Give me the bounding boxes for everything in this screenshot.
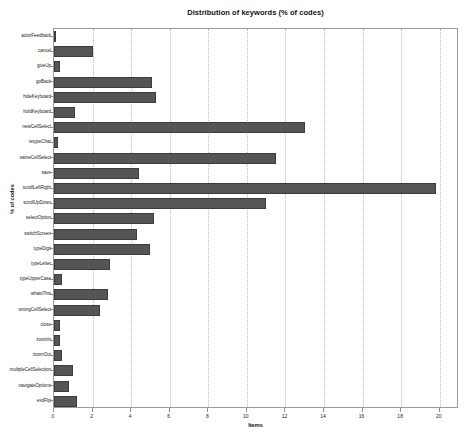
bar: [54, 350, 62, 361]
bar-row: [54, 363, 458, 379]
x-tick-mark: [400, 408, 401, 412]
y-tick-label: typeUpperCase: [1, 276, 51, 281]
x-tick-label: 8: [206, 413, 209, 419]
y-tick-label: selectOption: [1, 215, 51, 220]
y-tick-label: whatsThis: [1, 291, 51, 296]
x-axis-label: Items: [53, 422, 458, 428]
bar: [54, 46, 93, 57]
plot-area: [53, 28, 458, 408]
x-tick-mark: [92, 408, 93, 412]
y-tick-label: scrollUpDown: [1, 200, 51, 205]
bar: [54, 229, 137, 240]
y-tick-label: multipleCellSelection: [1, 367, 51, 372]
y-tick-label: zoomOut: [1, 352, 51, 357]
bar-row: [54, 104, 458, 120]
bar-row: [54, 317, 458, 333]
bar: [54, 381, 69, 392]
y-tick-label: giveUp: [1, 63, 51, 68]
x-tick-label: 4: [129, 413, 132, 419]
bar-row: [54, 302, 458, 318]
bar: [54, 61, 60, 72]
y-tick-label: close: [1, 322, 51, 327]
bar-row: [54, 287, 458, 303]
x-tick-label: 6: [167, 413, 170, 419]
bar: [54, 365, 73, 376]
bar: [54, 305, 100, 316]
x-tick-label: 20: [436, 413, 442, 419]
bar: [54, 183, 436, 194]
bar: [54, 92, 156, 103]
bar-row: [54, 120, 458, 136]
bar-row: [54, 272, 458, 288]
y-tick-label: sameCellSelect: [1, 155, 51, 160]
bar: [54, 213, 154, 224]
y-tick-label: newCellSelect: [1, 124, 51, 129]
bar-row: [54, 135, 458, 151]
y-tick-label: cancel: [1, 48, 51, 53]
y-tick-label: navigateOptions: [1, 383, 51, 388]
y-tick-label: scrollLeftRight: [1, 185, 51, 190]
x-tick-label: 14: [320, 413, 326, 419]
bar-row: [54, 150, 458, 166]
bar-row: [54, 378, 458, 394]
x-tick-mark: [246, 408, 247, 412]
bar: [54, 107, 75, 118]
x-tick-mark: [362, 408, 363, 412]
y-tick-label: holdKeyboard: [1, 109, 51, 114]
bar-row: [54, 28, 458, 44]
y-tick-label: wrongCellSelect: [1, 307, 51, 312]
y-tick-label: switchScreen: [1, 231, 51, 236]
x-tick-label: 10: [243, 413, 249, 419]
x-tick-mark: [323, 408, 324, 412]
x-tick-label: 0: [52, 413, 55, 419]
y-tick-label: retypeChar: [1, 139, 51, 144]
bar-row: [54, 180, 458, 196]
bar-row: [54, 226, 458, 242]
y-tick-label: zoomIn: [1, 337, 51, 342]
bar-row: [54, 74, 458, 90]
y-tick-label: exitFlip: [1, 398, 51, 403]
y-tick-label: typeLetter: [1, 261, 51, 266]
x-tick-mark: [207, 408, 208, 412]
x-tick-mark: [284, 408, 285, 412]
x-tick-mark: [53, 408, 54, 412]
chart-title: Distribution of keywords (% of codes): [53, 8, 458, 17]
bar: [54, 244, 150, 255]
x-tick-mark: [130, 408, 131, 412]
bar: [54, 168, 139, 179]
bar: [54, 122, 305, 133]
bar: [54, 335, 60, 346]
y-tick-label: hideKeyboard: [1, 94, 51, 99]
bar: [54, 274, 62, 285]
bar-row: [54, 165, 458, 181]
bar: [54, 320, 60, 331]
bar-row: [54, 241, 458, 257]
bar-row: [54, 256, 458, 272]
x-tick-label: 16: [359, 413, 365, 419]
bar-row: [54, 59, 458, 75]
bar: [54, 153, 276, 164]
y-tick-label: typeDigit: [1, 246, 51, 251]
bar-row: [54, 211, 458, 227]
bar-row: [54, 348, 458, 364]
bar-row: [54, 44, 458, 60]
x-tick-mark: [439, 408, 440, 412]
bar: [54, 289, 108, 300]
x-tick-label: 2: [90, 413, 93, 419]
y-tick-label: actorFeedback: [1, 33, 51, 38]
bar-row: [54, 89, 458, 105]
x-tick-mark: [169, 408, 170, 412]
y-tick-label: goBack: [1, 79, 51, 84]
bar: [54, 31, 56, 42]
x-tick-label: 12: [282, 413, 288, 419]
bar: [54, 137, 58, 148]
bar: [54, 259, 110, 270]
bar: [54, 198, 266, 209]
chart-figure: Distribution of keywords (% of codes) % …: [0, 0, 472, 442]
bar-row: [54, 196, 458, 212]
bar: [54, 77, 152, 88]
bar: [54, 396, 77, 407]
y-tick-label: save: [1, 170, 51, 175]
y-axis-tick-labels: actorFeedbackcancelgiveUpgoBackhideKeybo…: [0, 28, 51, 408]
bar-row: [54, 332, 458, 348]
